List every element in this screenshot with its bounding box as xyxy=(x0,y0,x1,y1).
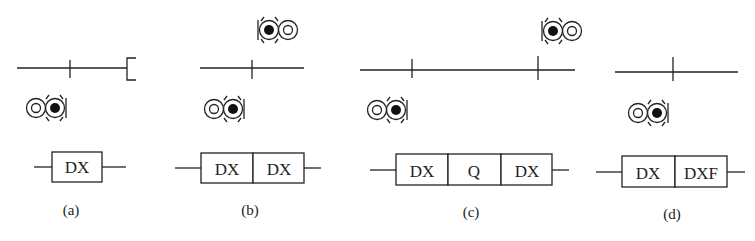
box-label-dx: DX xyxy=(636,164,661,183)
box-label-q: Q xyxy=(468,162,480,181)
caption-a: (a) xyxy=(63,202,80,219)
track-end-bracket xyxy=(127,58,136,80)
signal-icon xyxy=(629,100,669,126)
signal-icon xyxy=(258,17,298,43)
signal-icon xyxy=(27,95,67,121)
box-label-dx: DX xyxy=(215,160,240,179)
caption-b: (b) xyxy=(241,202,259,219)
panel-c: DX Q DX (c) xyxy=(360,18,582,221)
box-label-dx: DX xyxy=(515,162,540,181)
signal-icon xyxy=(368,97,408,123)
box-label-dx: DX xyxy=(267,160,292,179)
caption-d: (d) xyxy=(663,206,681,223)
box-label-dx: DX xyxy=(65,158,90,177)
box-label-dx: DX xyxy=(410,162,435,181)
panel-b: DX DX (b) xyxy=(175,17,321,219)
signal-icon xyxy=(205,96,245,122)
signal-layout-diagram: DX (a) DX DX (b) DX Q DX (c) xyxy=(0,0,755,241)
caption-c: (c) xyxy=(463,204,480,221)
box-label-dxf: DXF xyxy=(684,164,718,183)
panel-d: DX DXF (d) xyxy=(596,57,745,223)
panel-a: DX (a) xyxy=(17,58,136,219)
signal-icon xyxy=(542,18,582,44)
